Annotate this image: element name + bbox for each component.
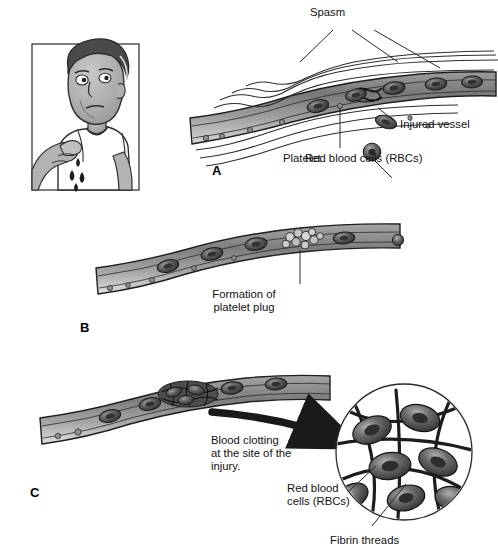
label-spasm: Spasm — [310, 6, 345, 19]
blood-clot-mass — [158, 381, 218, 407]
panel-a-vessel — [190, 51, 498, 166]
hemostasis-figure: Spasm Injured vessel Red blood cells (RB… — [0, 0, 498, 558]
label-inset-rbc-line1: Red blood — [287, 482, 339, 495]
panel-b-vessel — [96, 224, 404, 294]
label-red-blood-cells: Red blood cells (RBCs) — [305, 152, 422, 165]
label-clotting-line2: at the site of the — [211, 447, 291, 460]
label-platelet-plug-line2: platelet plug — [188, 301, 300, 314]
label-fibrin-threads: Fibrin threads — [330, 534, 399, 547]
label-clotting-line1: Blood clotting — [211, 434, 279, 447]
panel-c-vessel — [40, 375, 352, 444]
clot-inset-circle — [332, 384, 472, 526]
label-injured-vessel: Injured vessel — [400, 118, 470, 131]
label-clotting-line3: injury. — [211, 460, 240, 473]
label-inset-rbc-line2: cells (RBCs) — [287, 495, 350, 508]
label-platelet: Platelet — [283, 152, 321, 165]
figure-artwork — [0, 0, 498, 558]
cartoon-man-panel — [32, 39, 139, 192]
panel-letter-c: C — [30, 485, 39, 500]
panel-letter-b: B — [80, 320, 89, 335]
label-platelet-plug-line1: Formation of — [188, 288, 300, 301]
panel-letter-a: A — [212, 163, 221, 178]
